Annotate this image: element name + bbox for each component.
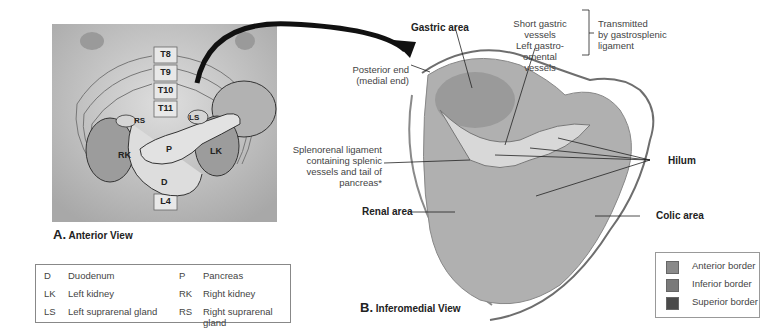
border-legend: Anterior border Inferior border Superior… (655, 252, 760, 318)
label-transmitted: Transmitted by gastrosplenic ligament (598, 18, 667, 51)
label-splenorenal-ligament: Splenorenal ligament containing splenic … (290, 144, 382, 188)
label-gastric-area: Gastric area (411, 22, 469, 33)
label-renal-area: Renal area (362, 206, 413, 217)
anterior-border-swatch (666, 261, 679, 274)
label-colic-area: Colic area (656, 210, 704, 221)
panel-b-title: B. Inferomedial View (360, 300, 461, 315)
label-posterior-end: Posterior end (medial end) (349, 64, 409, 86)
inferior-border-swatch (666, 279, 679, 292)
label-hilum: Hilum (668, 155, 696, 166)
superior-border-swatch (666, 297, 679, 310)
label-vessels: Short gastric vessels Left gastro-omenta… (500, 18, 580, 73)
